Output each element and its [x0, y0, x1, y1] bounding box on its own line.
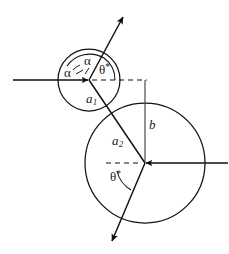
label-alpha-left: α — [64, 66, 71, 79]
label-theta-star-upper: θ* — [99, 63, 110, 76]
theta-lower-superscript: * — [116, 169, 121, 179]
diagram-canvas: α α θ* a1 a2 b θ* — [0, 0, 229, 254]
label-a2: a2 — [112, 134, 123, 149]
alpha-upper-tick — [85, 68, 89, 74]
a1-subscript: 1 — [93, 97, 97, 107]
alpha-inner-arc — [73, 65, 80, 70]
label-b: b — [149, 118, 156, 131]
label-alpha-upper: α — [84, 54, 91, 67]
a2-subscript: 2 — [119, 139, 123, 149]
label-theta-star-lower: θ* — [110, 170, 121, 183]
theta-upper-superscript: * — [105, 62, 110, 72]
diagram-vector-layer — [0, 0, 229, 254]
label-a1: a1 — [86, 92, 97, 107]
alpha-left-tick — [76, 70, 83, 74]
